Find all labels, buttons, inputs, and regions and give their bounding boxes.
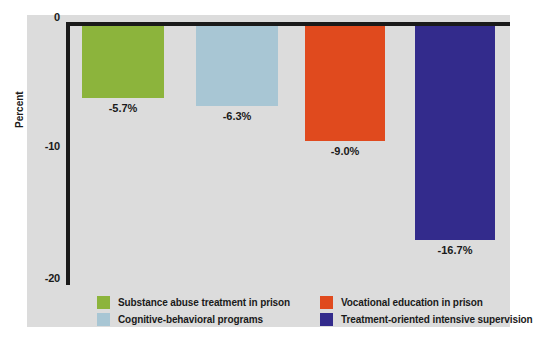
plot-area: -5.7%-6.3%-9.0%-16.7%	[67, 24, 510, 283]
bar-value-label-3: -9.0%	[305, 145, 385, 157]
y-tick-label-0: 0	[38, 11, 60, 23]
legend-item-4[interactable]: Treatment-oriented intensive supervision	[320, 311, 533, 328]
y-axis-title: Percent	[14, 91, 25, 128]
zero-axis-line	[67, 22, 510, 26]
legend-label-3: Vocational education in prison	[341, 297, 483, 308]
legend-item-1[interactable]: Substance abuse treatment in prison	[97, 294, 290, 311]
legend-column-left: Substance abuse treatment in prisonCogni…	[97, 294, 290, 328]
legend-item-2[interactable]: Cognitive-behavioral programs	[97, 311, 290, 328]
bar-value-label-1: -5.7%	[82, 102, 164, 114]
legend-swatch-icon-4	[320, 313, 333, 326]
bar-1	[82, 24, 164, 98]
bar-3	[305, 24, 385, 141]
bar-4	[415, 24, 495, 240]
bar-value-label-2: -6.3%	[196, 110, 278, 122]
legend-column-right: Vocational education in prisonTreatment-…	[320, 294, 533, 328]
legend-label-4: Treatment-oriented intensive supervision	[341, 314, 533, 325]
legend-item-3[interactable]: Vocational education in prison	[320, 294, 533, 311]
legend-label-2: Cognitive-behavioral programs	[118, 314, 263, 325]
y-axis-line	[66, 22, 70, 285]
legend-swatch-icon-1	[97, 296, 110, 309]
legend-swatch-icon-3	[320, 296, 333, 309]
chart-legend: Substance abuse treatment in prisonCogni…	[70, 294, 510, 328]
legend-label-1: Substance abuse treatment in prison	[118, 297, 290, 308]
y-tick-label-20: -20	[32, 272, 60, 284]
y-tick-label-10: -10	[32, 140, 60, 152]
bar-2	[196, 24, 278, 106]
bar-value-label-4: -16.7%	[415, 244, 495, 256]
legend-swatch-icon-2	[97, 313, 110, 326]
